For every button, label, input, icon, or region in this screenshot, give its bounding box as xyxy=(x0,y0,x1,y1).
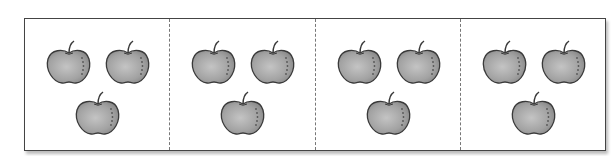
panel-3 xyxy=(315,19,460,150)
apple-icon xyxy=(45,39,93,85)
panel-1 xyxy=(25,19,169,150)
apple-icon xyxy=(481,39,529,85)
apple-icon xyxy=(219,90,267,136)
apple-icon xyxy=(190,39,238,85)
apple-icon xyxy=(249,39,297,85)
apple-icon xyxy=(104,39,152,85)
apple-icon xyxy=(510,90,558,136)
apple-icon xyxy=(395,39,443,85)
apple-icon xyxy=(336,39,384,85)
apple-icon xyxy=(74,90,122,136)
panel-2 xyxy=(169,19,314,150)
apple-icon xyxy=(365,90,413,136)
panel-4 xyxy=(460,19,605,150)
apple-panels-strip xyxy=(24,18,606,151)
apple-icon xyxy=(540,39,588,85)
